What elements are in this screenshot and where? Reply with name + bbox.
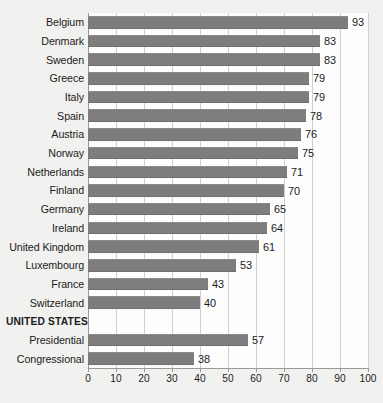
bar-row: UNITED STATES: [0, 312, 383, 331]
bar: [88, 16, 348, 29]
bar-row: Austria76: [0, 125, 383, 144]
bar-row: Presidential57: [0, 331, 383, 350]
row-label: Finland: [6, 184, 84, 196]
x-tick-label-60: 60: [250, 372, 261, 385]
row-label: Italy: [6, 91, 84, 103]
row-label: France: [6, 278, 84, 290]
x-tick-label-100: 100: [360, 372, 377, 385]
row-label: Netherlands: [6, 166, 84, 178]
x-tick-label-80: 80: [306, 372, 317, 385]
bar-value-label: 53: [240, 259, 252, 271]
bar-rows: Belgium93Denmark83Sweden83Greece79Italy7…: [0, 13, 383, 368]
row-label: Congressional: [6, 353, 84, 365]
bar-container: 79: [88, 87, 383, 107]
bar-value-label: 61: [263, 241, 275, 253]
bar-container: 83: [88, 31, 383, 51]
bar-container: 40: [88, 293, 383, 313]
bar-row: Norway75: [0, 144, 383, 163]
bar-row: Spain78: [0, 106, 383, 125]
bar-container: 57: [88, 330, 383, 350]
bar-container: 79: [88, 69, 383, 89]
bar-container: 83: [88, 50, 383, 70]
bar-value-label: 40: [204, 297, 216, 309]
bar-container: 64: [88, 218, 383, 238]
bar-value-label: 79: [313, 72, 325, 84]
row-label: Luxembourg: [6, 259, 84, 271]
bar: [88, 128, 301, 141]
bar-value-label: 71: [291, 166, 303, 178]
bar-row: Luxembourg53: [0, 256, 383, 275]
bar: [88, 147, 298, 160]
row-label: Switzerland: [6, 297, 84, 309]
bar-row: Denmark83: [0, 32, 383, 51]
bar: [88, 109, 306, 122]
bar-container: 78: [88, 106, 383, 126]
bar-value-label: 70: [288, 185, 300, 197]
bar: [88, 334, 248, 347]
row-label: Denmark: [6, 35, 84, 47]
bar: [88, 352, 194, 365]
bar-value-label: 79: [313, 91, 325, 103]
row-label: UNITED STATES: [6, 315, 84, 327]
row-label: Germany: [6, 203, 84, 215]
bar-row: United Kingdom61: [0, 237, 383, 256]
bar-row: Congressional38: [0, 349, 383, 368]
bar-value-label: 75: [302, 147, 314, 159]
clipped-title-remnant: [0, 0, 383, 8]
bar: [88, 296, 200, 309]
bar: [88, 72, 309, 85]
bar: [88, 278, 208, 291]
x-tick-label-90: 90: [334, 372, 345, 385]
bar-value-label: 83: [324, 35, 336, 47]
bar: [88, 91, 309, 104]
bar-row: Belgium93: [0, 13, 383, 32]
bar-value-label: 64: [271, 222, 283, 234]
x-tick-label-30: 30: [166, 372, 177, 385]
x-axis: 0102030405060708090100: [88, 368, 368, 390]
row-label: Sweden: [6, 54, 84, 66]
bar-row: Finland70: [0, 181, 383, 200]
bar-container: 38: [88, 349, 383, 369]
bar-value-label: 43: [212, 278, 224, 290]
bar-container: 71: [88, 162, 383, 182]
row-label: United Kingdom: [6, 241, 84, 253]
bar: [88, 35, 320, 48]
bar: [88, 53, 320, 66]
bar-value-label: 38: [198, 353, 210, 365]
row-label: Ireland: [6, 222, 84, 234]
row-label: Presidential: [6, 334, 84, 346]
bar: [88, 222, 267, 235]
bar: [88, 166, 287, 179]
row-label: Spain: [6, 110, 84, 122]
bar: [88, 184, 284, 197]
row-label: Austria: [6, 128, 84, 140]
bar-container: 76: [88, 125, 383, 145]
bar-container: 93: [88, 12, 383, 32]
bar-value-label: 78: [310, 110, 322, 122]
bar-row: Ireland64: [0, 219, 383, 238]
bar-container: 65: [88, 199, 383, 219]
x-tick-label-40: 40: [194, 372, 205, 385]
bar-row: Germany65: [0, 200, 383, 219]
bar-row: France43: [0, 275, 383, 294]
bar-value-label: 76: [305, 128, 317, 140]
x-tick-label-70: 70: [278, 372, 289, 385]
bar-row: Switzerland40: [0, 293, 383, 312]
bar-container: 43: [88, 274, 383, 294]
bar: [88, 259, 236, 272]
x-tick-label-10: 10: [110, 372, 121, 385]
bar-value-label: 83: [324, 54, 336, 66]
bar: [88, 240, 259, 253]
bar-value-label: 57: [252, 334, 264, 346]
bar-row: Sweden83: [0, 50, 383, 69]
bar-container: 61: [88, 237, 383, 257]
bar-chart: Belgium93Denmark83Sweden83Greece79Italy7…: [0, 0, 383, 403]
bar-row: Greece79: [0, 69, 383, 88]
bar-container: 53: [88, 255, 383, 275]
x-tick-label-20: 20: [138, 372, 149, 385]
bar-value-label: 65: [274, 203, 286, 215]
bar-value-label: 93: [352, 16, 364, 28]
row-label: Belgium: [6, 16, 84, 28]
row-label: Norway: [6, 147, 84, 159]
bar-container: 75: [88, 143, 383, 163]
